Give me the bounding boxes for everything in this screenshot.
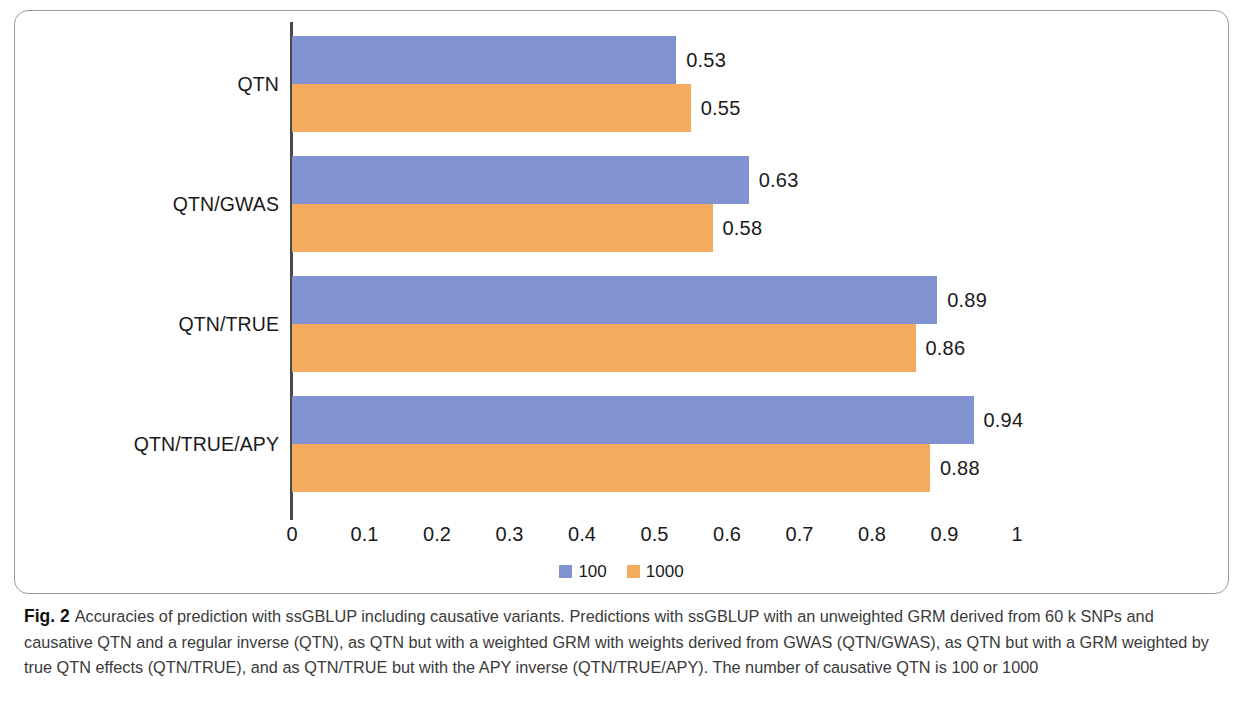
bar-1000[interactable] <box>292 324 916 372</box>
legend-item-1000[interactable]: 1000 <box>627 563 684 580</box>
x-tick-label: 0.2 <box>423 523 451 546</box>
bar-value-label: 0.88 <box>940 457 980 480</box>
bar-value-label: 0.58 <box>723 217 763 240</box>
legend-swatch-icon <box>559 565 572 578</box>
bar-value-label: 0.53 <box>686 49 726 72</box>
chart-plot-area: QTNQTN/GWASQTN/TRUEQTN/TRUE/APY 0.530.55… <box>15 11 1228 593</box>
bars-layer: 0.530.550.630.580.890.860.940.88 <box>292 11 1228 593</box>
bar-100[interactable] <box>292 156 749 204</box>
chart-legend: 1001000 <box>15 563 1228 580</box>
x-tick-label: 0.8 <box>858 523 886 546</box>
figure-caption: Fig. 2Accuracies of prediction with ssGB… <box>24 604 1224 681</box>
x-tick-label: 0.7 <box>786 523 814 546</box>
bar-1000[interactable] <box>292 444 930 492</box>
x-tick-label: 0.3 <box>496 523 524 546</box>
bar-1000[interactable] <box>292 84 691 132</box>
legend-label: 1000 <box>646 563 684 580</box>
bar-value-label: 0.63 <box>759 169 799 192</box>
bar-value-label: 0.55 <box>701 97 741 120</box>
category-label-qtn-true: QTN/TRUE <box>15 313 279 336</box>
bar-value-label: 0.86 <box>926 337 966 360</box>
bar-100[interactable] <box>292 36 676 84</box>
figure-label: Fig. 2 <box>24 606 70 626</box>
bar-1000[interactable] <box>292 204 713 252</box>
x-tick-label: 1 <box>1011 523 1022 546</box>
category-label-qtn-gwas: QTN/GWAS <box>15 193 279 216</box>
x-tick-label: 0 <box>286 523 297 546</box>
figure-caption-text: Accuracies of prediction with ssGBLUP in… <box>24 607 1209 676</box>
figure-panel: QTNQTN/GWASQTN/TRUEQTN/TRUE/APY 0.530.55… <box>14 10 1229 594</box>
bar-100[interactable] <box>292 396 974 444</box>
x-tick-label: 0.4 <box>568 523 596 546</box>
x-tick-label: 0.1 <box>351 523 379 546</box>
legend-item-100[interactable]: 100 <box>559 563 606 580</box>
bar-value-label: 0.89 <box>947 289 987 312</box>
category-axis-labels: QTNQTN/GWASQTN/TRUEQTN/TRUE/APY <box>15 11 279 593</box>
x-tick-label: 0.5 <box>641 523 669 546</box>
legend-label: 100 <box>578 563 606 580</box>
legend-swatch-icon <box>627 565 640 578</box>
bar-100[interactable] <box>292 276 937 324</box>
category-label-qtn: QTN <box>15 73 279 96</box>
x-tick-label: 0.6 <box>713 523 741 546</box>
category-label-qtn-true-apy: QTN/TRUE/APY <box>15 433 279 456</box>
bar-value-label: 0.94 <box>984 409 1024 432</box>
x-tick-label: 0.9 <box>931 523 959 546</box>
